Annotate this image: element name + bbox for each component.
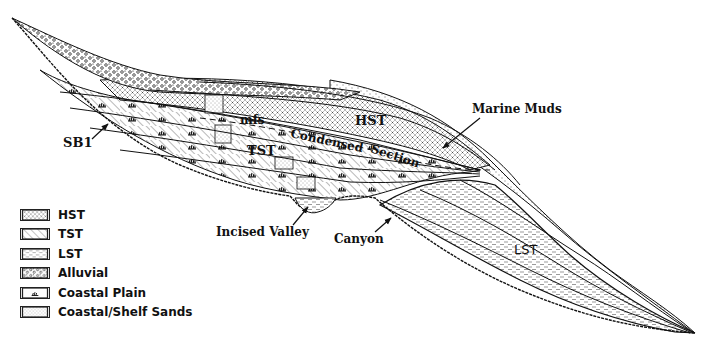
sand-pod [205,95,223,113]
incised-valley-fill [295,198,336,213]
legend-item-coastal-plain: Coastal Plain [20,283,220,303]
label-sb1: SB1 [63,135,92,150]
tst-swatch-icon [20,228,50,240]
legend-item-hst: HST [20,205,220,225]
legend-item-tst: TST [20,225,220,245]
legend-label: HST [58,208,85,222]
legend: HST TST LST Alluvial Coastal Plain Coast… [20,205,220,322]
label-marine-muds: Marine Muds [472,102,562,116]
coastal-shelf-sands-swatch-icon [20,306,50,318]
lst-wedge [380,180,695,333]
sand-pod [297,177,315,189]
label-canyon: Canyon [334,232,384,246]
sand-pod [215,125,231,143]
sb1-arrow [92,124,108,139]
legend-label: Coastal Plain [58,286,146,300]
legend-label: Alluvial [58,266,108,280]
coastal-plain-swatch-icon [20,287,50,299]
label-hst: HST [355,113,387,128]
legend-label: LST [58,247,82,261]
label-mfs: mfs [240,113,265,127]
incised-valley-arrow [293,207,308,225]
legend-label: TST [58,227,83,241]
label-lst: LST [514,242,537,257]
label-incised-valley: Incised Valley [216,225,310,239]
legend-item-coastal-shelf-sands: Coastal/Shelf Sands [20,303,220,323]
legend-label: Coastal/Shelf Sands [58,305,192,319]
alluvial-swatch-icon [20,267,50,279]
hst-swatch-icon [20,209,50,221]
label-tst: TST [247,143,276,158]
lst-swatch-icon [20,248,50,260]
legend-item-lst: LST [20,244,220,264]
canyon-arrow [375,218,391,232]
legend-item-alluvial: Alluvial [20,264,220,284]
